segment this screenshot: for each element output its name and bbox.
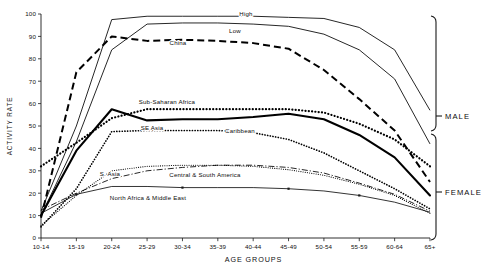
group-brackets: MALEFEMALE (431, 16, 482, 240)
axes (41, 14, 430, 238)
y-tick-label: 50 (29, 122, 37, 129)
x-tick-label: 40-44 (245, 243, 262, 250)
series-label: Central & South America (169, 171, 241, 178)
y-tick-label: 20 (29, 190, 37, 197)
series-marker (75, 193, 77, 195)
series-label: Sub-Saharan Africa (139, 98, 196, 105)
series-marker (181, 187, 183, 189)
series-label: China (170, 39, 187, 46)
y-axis-title: ACTIVITY RATE (6, 97, 13, 156)
bracket-label-female: FEMALE (445, 188, 482, 197)
x-tick-label: 45-49 (280, 243, 297, 250)
y-tick-label: 70 (29, 78, 37, 85)
chart-canvas: 0102030405060708090100ACTIVITY RATE10-14… (0, 0, 496, 274)
y-axis-ticks: 0102030405060708090100 (25, 10, 41, 241)
series-label: Caribbean (225, 127, 255, 134)
series-label: Low (229, 27, 241, 34)
bracket-male (431, 16, 436, 131)
x-tick-label: 55-59 (351, 243, 368, 250)
activity-rate-line-chart: 0102030405060708090100ACTIVITY RATE10-14… (0, 0, 496, 274)
x-tick-label: 30-34 (174, 243, 191, 250)
y-tick-label: 60 (29, 100, 37, 107)
x-axis-title: AGE GROUPS (225, 255, 282, 264)
series-line-north-africa-middle-east (41, 186, 430, 213)
series-label: SE Asia (141, 124, 164, 131)
series-group (41, 16, 430, 227)
series-line-high (41, 16, 430, 211)
y-tick-label: 100 (25, 10, 36, 17)
x-tick-label: 50-54 (316, 243, 333, 250)
series-label: North Africa & Middle East (110, 194, 186, 201)
x-tick-label: 25-29 (139, 243, 156, 250)
y-tick-label: 90 (29, 33, 37, 40)
x-tick-label: 35-39 (210, 243, 227, 250)
y-tick-label: 80 (29, 55, 37, 62)
series-marker (358, 194, 360, 196)
x-tick-label: 10-14 (33, 243, 50, 250)
series-label: High (239, 10, 252, 17)
y-tick-label: 40 (29, 145, 37, 152)
series-label: S. Asia (100, 170, 121, 177)
bracket-label-male: MALE (445, 112, 470, 121)
x-tick-label: 15-19 (68, 243, 85, 250)
y-tick-label: 10 (29, 212, 37, 219)
series-line-se-asia (41, 109, 430, 215)
y-tick-label: 30 (29, 167, 37, 174)
bracket-female (431, 134, 436, 240)
x-tick-label: 60-64 (386, 243, 403, 250)
series-marker (287, 188, 289, 190)
y-tick-label: 0 (32, 234, 36, 241)
x-axis-ticks: 10-1415-1920-2425-2930-3435-3940-4445-49… (33, 238, 436, 250)
axis-lines (41, 14, 430, 238)
series-line-caribbean (41, 130, 430, 226)
x-tick-label: 65+ (425, 243, 436, 250)
x-tick-label: 20-24 (103, 243, 120, 250)
